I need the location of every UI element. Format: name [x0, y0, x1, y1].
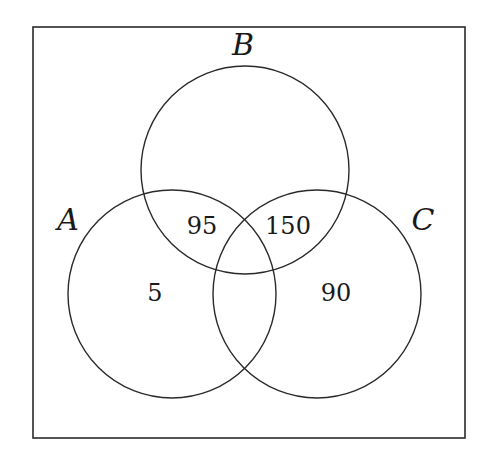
set-c-circle [213, 190, 421, 398]
region-a-only-value: 5 [147, 279, 162, 307]
set-a-circle [68, 190, 276, 398]
region-a-b-value: 95 [187, 212, 218, 240]
region-c-only-value: 90 [321, 279, 352, 307]
set-c-label: C [412, 202, 435, 237]
region-b-c-value: 150 [265, 212, 311, 240]
set-b-label: B [231, 27, 254, 62]
venn-diagram: A B C 95 150 5 90 [0, 0, 484, 457]
set-a-label: A [54, 202, 79, 237]
set-b-circle [141, 66, 349, 274]
